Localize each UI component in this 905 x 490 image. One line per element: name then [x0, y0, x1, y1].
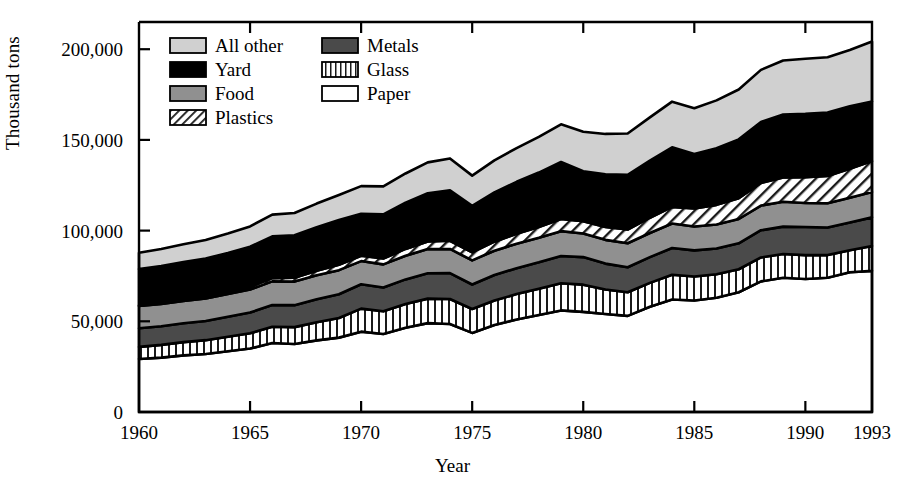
y-tick-label: 50,000: [71, 311, 123, 332]
x-tick-label: 1985: [675, 422, 713, 443]
x-tick-label: 1970: [342, 422, 380, 443]
x-tick-label: 1980: [564, 422, 602, 443]
stacked-area-chart: 050,000100,000150,000200,000 19601965197…: [0, 0, 905, 490]
legend-label-metals: Metals: [367, 35, 419, 56]
legend-label-plastics: Plastics: [215, 107, 273, 128]
legend-label-food: Food: [215, 83, 255, 104]
legend-swatch-all-other: [170, 38, 206, 53]
legend-swatch-glass: [322, 62, 358, 77]
chart-figure: Thousand tons Year 050,000100,000150,000…: [0, 0, 905, 490]
chart-legend: All otherMetalsYardGlassFoodPaperPlastic…: [170, 35, 419, 128]
legend-swatch-paper: [322, 86, 358, 101]
legend-label-paper: Paper: [367, 83, 411, 104]
legend-swatch-yard: [170, 62, 206, 77]
legend-swatch-metals: [322, 38, 358, 53]
y-tick-label: 150,000: [61, 130, 123, 151]
y-tick-label: 200,000: [61, 39, 123, 60]
legend-swatch-plastics: [170, 110, 206, 125]
legend-label-all-other: All other: [215, 35, 284, 56]
legend-label-glass: Glass: [367, 59, 409, 80]
x-tick-label: 1993: [853, 422, 891, 443]
y-axis: 050,000100,000150,000200,000: [61, 39, 150, 423]
x-tick-label: 1975: [453, 422, 491, 443]
y-tick-label: 100,000: [61, 221, 123, 242]
x-tick-label: 1990: [786, 422, 824, 443]
figure-caption: [30, 482, 880, 490]
legend-swatch-food: [170, 86, 206, 101]
y-tick-label: 0: [114, 402, 124, 423]
x-tick-label: 1965: [231, 422, 269, 443]
x-tick-label: 1960: [120, 422, 158, 443]
legend-label-yard: Yard: [215, 59, 252, 80]
